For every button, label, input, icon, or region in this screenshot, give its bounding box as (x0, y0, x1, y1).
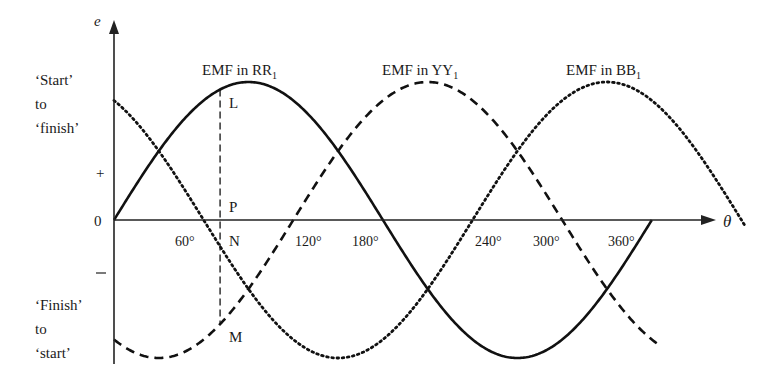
series-label-yy1: EMF in YY1 (382, 62, 458, 81)
x-tick-180: 180° (352, 234, 379, 249)
y-axis-label: e (94, 13, 101, 29)
start-to-finish-label-3: ‘finish’ (35, 120, 79, 136)
series-label-bb1: EMF in BB1 (566, 62, 641, 81)
x-axis-label: θ (723, 212, 731, 231)
finish-to-start-label-2: to (35, 321, 47, 337)
three-phase-emf-diagram: + e θ 0 ‘Start’ to ‘finish’ ‘Finish’ to … (0, 0, 765, 383)
x-tick-120: 120° (295, 234, 322, 249)
finish-to-start-label-3: ‘start’ (35, 345, 71, 361)
point-label-n: N (229, 233, 240, 249)
y-tick-plus: + (96, 165, 104, 181)
point-label-p: P (229, 199, 237, 215)
x-tick-240: 240° (475, 234, 502, 249)
x-tick-360: 360° (608, 234, 635, 249)
start-to-finish-label-1: ‘Start’ (35, 72, 73, 88)
x-tick-300: 300° (533, 234, 560, 249)
point-label-l: L (229, 95, 238, 111)
x-axis-arrow-icon (701, 215, 716, 225)
finish-to-start-label-1: ‘Finish’ (35, 297, 83, 313)
point-label-m: M (229, 329, 242, 345)
x-tick-60: 60° (175, 234, 195, 249)
y-axis-arrow-icon (109, 20, 119, 34)
origin-label: 0 (94, 213, 102, 229)
series-label-rr1: EMF in RR1 (202, 62, 277, 81)
start-to-finish-label-2: to (35, 96, 47, 112)
